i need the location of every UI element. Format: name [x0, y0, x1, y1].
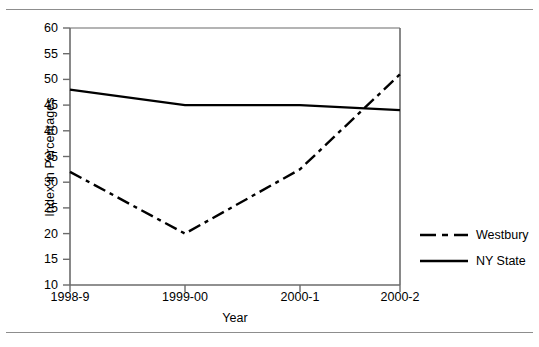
series-line-westbury — [70, 74, 400, 233]
y-axis-title: Index in Percentages — [43, 57, 57, 257]
chart-legend: Westbury NY State — [420, 222, 535, 274]
legend-item-ny-state: NY State — [420, 248, 535, 274]
x-tick-marks — [70, 285, 400, 292]
legend-label-ny-state: NY State — [476, 254, 526, 268]
y-tick-label: 60 — [28, 22, 58, 34]
x-tick-label: 2000-1 — [255, 291, 345, 303]
x-tick-label: 1998-9 — [25, 291, 115, 303]
y-tick-marks — [63, 28, 70, 285]
x-axis-title: Year — [70, 311, 400, 325]
legend-label-westbury: Westbury — [476, 228, 529, 242]
x-tick-label: 2000-2 — [355, 291, 445, 303]
series-line-ny-state — [70, 90, 400, 111]
axes-group — [70, 28, 400, 285]
x-tick-label: 1999-00 — [140, 291, 230, 303]
chart-figure: 60 55 50 45 40 35 30 25 20 15 10 1998-9 … — [0, 0, 539, 347]
legend-item-westbury: Westbury — [420, 222, 535, 248]
dash-dot-line-key — [420, 229, 468, 241]
solid-line-key — [420, 255, 468, 267]
line-chart: 60 55 50 45 40 35 30 25 20 15 10 1998-9 … — [0, 0, 539, 347]
